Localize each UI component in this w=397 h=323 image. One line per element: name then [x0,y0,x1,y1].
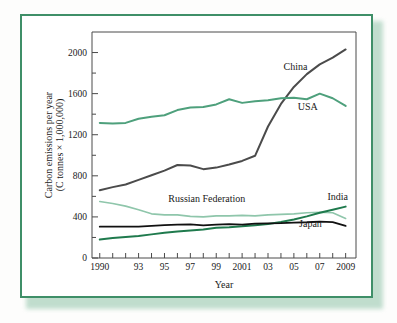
y-tick-label: 400 [73,212,88,222]
y-axis-title-line2: (C tonnes × 1,000,000) [54,99,66,192]
y-tick-label: 1200 [68,130,87,140]
y-tick-label: 0 [82,253,87,263]
series-label-japan: Japan [299,218,322,229]
x-tick-label: 2001 [233,262,252,272]
x-tick-label: 05 [289,262,299,272]
series-label-india: India [328,191,349,202]
x-tick-label: 99 [211,262,221,272]
y-tick-label: 2000 [68,48,87,58]
x-tick-label: 97 [186,262,196,272]
y-tick-label: 800 [73,171,88,181]
y-axis-title-line1: Carbon emissions per year [43,91,54,198]
chart-container: ChinaUSARussian FederationIndiaJapan 040… [0,0,397,323]
x-tick-label: 03 [263,262,273,272]
chart-axis-titles: YearCarbon emissions per year(C tonnes ×… [43,91,234,290]
x-tick-label: 1990 [90,262,109,272]
series-label-russian-federation: Russian Federation [168,193,245,204]
line-chart: ChinaUSARussian FederationIndiaJapan 040… [0,0,397,323]
figure-root: ChinaUSARussian FederationIndiaJapan 040… [0,0,397,323]
x-tick-label: 07 [315,262,325,272]
x-tick-label: 2009 [336,262,355,272]
chart-series-labels: ChinaUSARussian FederationIndiaJapan [168,61,348,229]
x-tick-label: 93 [134,262,144,272]
series-label-usa: USA [298,101,319,112]
x-axis-title: Year [215,279,234,290]
chart-series-group [100,49,346,239]
y-tick-label: 1600 [68,89,87,99]
series-label-china: China [284,61,308,72]
x-tick-label: 95 [160,262,170,272]
